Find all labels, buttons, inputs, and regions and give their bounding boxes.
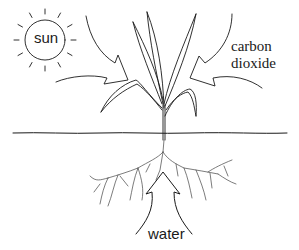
carbon-dioxide-label-line1: carbon bbox=[231, 38, 276, 55]
roots-icon bbox=[90, 140, 236, 206]
carbon-dioxide-label-line2: dioxide bbox=[231, 55, 276, 72]
ground-line bbox=[13, 133, 287, 134]
carbon-dioxide-label: carbon dioxide bbox=[231, 38, 276, 72]
water-label: water bbox=[148, 226, 185, 241]
light-arrow-icon bbox=[56, 16, 128, 84]
sun-label: sun bbox=[34, 30, 58, 45]
plant-icon bbox=[101, 12, 196, 140]
